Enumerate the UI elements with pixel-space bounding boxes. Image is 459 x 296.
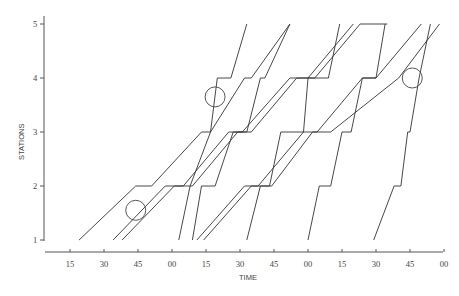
x-tick-label: 15 (202, 259, 211, 269)
slow-train-1 (79, 24, 290, 240)
x-tick-label: 00 (304, 259, 313, 269)
x-tick-label: 30 (372, 259, 381, 269)
x-tick-label: 45 (270, 259, 279, 269)
x-axis: 153045001530450015304500 TIME (45, 249, 448, 282)
train-time-space-diagram: 12345 STATIONS 153045001530450015304500 … (0, 0, 459, 296)
y-tick-label: 1 (33, 235, 37, 245)
x-tick-label: 45 (134, 259, 143, 269)
x-tick-label: 15 (338, 259, 347, 269)
x-tick-label: 30 (100, 259, 109, 269)
x-tick-label: 00 (440, 259, 449, 269)
x-tick-label: 00 (168, 259, 177, 269)
overtake-point-1-circle (126, 200, 146, 220)
train-paths (79, 24, 439, 240)
fast-train-5 (374, 24, 431, 240)
y-tick-label: 4 (33, 73, 38, 83)
conflict-markers (126, 68, 423, 220)
x-tick-label: 45 (406, 259, 415, 269)
y-tick-label: 2 (33, 181, 37, 191)
y-axis-title: STATIONS (17, 124, 26, 160)
y-axis: 12345 STATIONS (17, 16, 44, 245)
x-axis-title: TIME (239, 273, 257, 282)
y-tick-label: 3 (33, 127, 37, 137)
x-tick-label: 15 (66, 259, 75, 269)
y-tick-label: 5 (33, 19, 37, 29)
x-tick-label: 30 (236, 259, 245, 269)
